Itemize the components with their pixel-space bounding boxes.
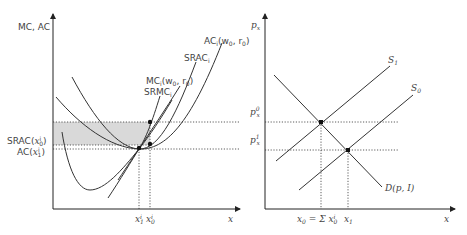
s0-label: S0 [411, 83, 421, 94]
x0-sum-tick-label: x0 = Σ xi0 [297, 213, 337, 225]
point-srmc-x0 [148, 120, 152, 124]
ac-x1-tick-label: AC(xi1) [17, 146, 45, 158]
left-x-axis-label: x [228, 214, 233, 224]
p1-tick-label: p1x [250, 133, 261, 146]
supply-s1-curve [276, 66, 390, 161]
p0-tick-label: p0x [250, 105, 261, 118]
s1-label: S1 [388, 55, 398, 66]
left-panel-cost-curves: MC, AC x ACi(w0, r0) SRACi MCi(w0, r0) S… [7, 14, 249, 225]
right-x-axis-label: x [444, 214, 449, 224]
right-panel-market: px x S1 S0 D(p, I) p0x p1x x0 = Σ xi0 x1 [250, 14, 455, 225]
demand-curve [274, 75, 382, 187]
equilibrium-point-0 [319, 120, 323, 124]
shaded-region [54, 122, 150, 145]
mc-long-run-label: MCi(w0, r0) [146, 76, 193, 87]
x1i-tick-label: xi1 [135, 213, 144, 225]
srac-x0-tick-label: SRAC(xi0) [7, 135, 47, 147]
supply-s0-curve [299, 95, 413, 190]
x0i-tick-label: xi0 [146, 213, 155, 225]
demand-label: D(p, I) [384, 183, 415, 193]
equilibrium-point-1 [346, 148, 350, 152]
economics-diagram: MC, AC x ACi(w0, r0) SRACi MCi(w0, r0) S… [0, 0, 467, 235]
srac-label: SRACi [184, 53, 210, 64]
left-y-axis-label: MC, AC [18, 22, 50, 32]
ac-long-run-label: ACi(w0, r0) [204, 36, 249, 47]
x1-tick-label: x1 [344, 214, 353, 225]
right-y-axis-label: px [251, 20, 261, 31]
srmc-label: SRMCi [144, 87, 172, 98]
point-ac-x1 [137, 146, 141, 150]
point-srac-x0 [148, 142, 152, 146]
